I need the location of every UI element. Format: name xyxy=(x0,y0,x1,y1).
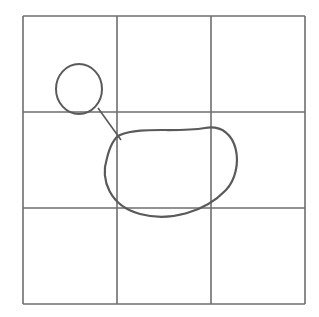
diagram-canvas xyxy=(0,0,319,317)
small-circle-node xyxy=(56,64,102,114)
large-blob-node xyxy=(105,127,237,216)
grid-3x3 xyxy=(23,16,305,304)
